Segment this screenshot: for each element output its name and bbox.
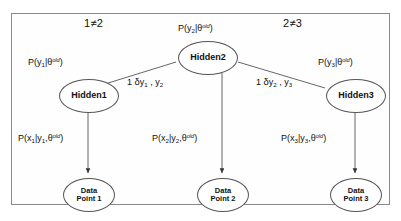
node-data-point-1[interactable]: Data Point 1: [63, 178, 115, 212]
node-hidden1[interactable]: Hidden1: [59, 79, 119, 113]
node-hidden2[interactable]: Hidden2: [178, 41, 238, 75]
node-data2-line2: Point 2: [210, 195, 235, 203]
node-data3-line2: Point 3: [343, 195, 368, 203]
label-data3-emission: P(x3|y3,θold): [281, 133, 326, 144]
node-hidden2-label: Hidden2: [190, 53, 226, 63]
label-left-potential: 1 δy1 , y2: [127, 76, 163, 88]
label-data2-emission: P(x2|y2,θold): [152, 133, 197, 144]
node-hidden3-label: Hidden3: [338, 91, 374, 101]
label-hidden1-prior: P(y1|θold): [28, 57, 63, 68]
label-inequality-left: 1≠2: [84, 17, 103, 29]
label-right-potential: 1 δy2 , y3: [256, 76, 292, 88]
label-hidden2-prior: P(y2|θold): [178, 23, 213, 34]
label-data1-emission: P(x1|y1,θold): [18, 133, 63, 144]
diagram-canvas: 1≠2 2≠3 P(y2|θold) P(y1|θold) P(y3|θold)…: [0, 0, 401, 221]
node-hidden3[interactable]: Hidden3: [326, 79, 386, 113]
node-data-point-2[interactable]: Data Point 2: [197, 178, 249, 212]
label-hidden3-prior: P(y3|θold): [318, 57, 353, 68]
node-data1-line2: Point 1: [76, 195, 101, 203]
node-data-point-3[interactable]: Data Point 3: [330, 178, 382, 212]
node-hidden1-label: Hidden1: [71, 91, 107, 101]
label-inequality-right: 2≠3: [283, 17, 302, 29]
